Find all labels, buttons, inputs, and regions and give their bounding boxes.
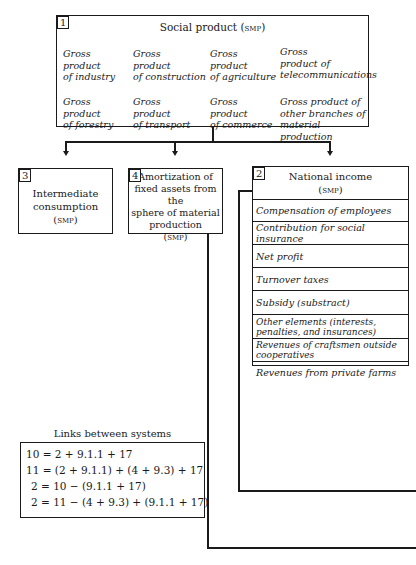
item-other-branches: Gross product ofother branches ofmateria…	[280, 96, 368, 142]
item-forestry: Grossproductof forestry	[63, 96, 113, 131]
equation-3: 2 = 10 − (9.1.1 + 17)	[26, 478, 199, 494]
links-box: 10 = 2 + 9.1.1 + 17 11 = (2 + 9.1.1) + (…	[20, 442, 205, 518]
item-transport: Grossproductof transport	[133, 96, 190, 131]
amortization-box: 4 Amortization of fixed assets from the …	[128, 168, 223, 234]
bracket-from-4-horizontal	[207, 547, 416, 549]
item-agriculture: Grossproductof agriculture	[210, 48, 276, 83]
equation-4: 2 = 11 − (4 + 9.3) + (9.1.1 + 17)	[26, 494, 199, 510]
bracket-from-2-horizontal	[238, 490, 416, 492]
social-product-box: 1 Social product (smp) Grossproductof in…	[56, 15, 369, 127]
national-income-label: National income	[253, 170, 408, 183]
item-telecommunications: Grossproduct oftelecommunications	[280, 46, 377, 81]
row-social-insurance: Contribution for social insurance	[253, 222, 408, 245]
row-other-elements: Other elements (interests, penalties, an…	[253, 315, 408, 339]
links-title: Links between systems	[20, 428, 205, 439]
row-net-profit: Net profit	[253, 245, 408, 268]
box4-line: production	[129, 219, 222, 231]
box4-line: fixed assets from the	[129, 183, 222, 207]
national-income-title: National income (smp)	[253, 167, 408, 200]
national-income-box: 2 National income (smp) Compensation of …	[252, 166, 409, 366]
box-number-2: 2	[253, 167, 265, 180]
equation-1: 10 = 2 + 9.1.1 + 17	[26, 446, 199, 462]
national-income-smp: (smp)	[253, 183, 408, 196]
box3-line: consumption	[19, 200, 112, 213]
arrow-to-3	[63, 151, 69, 156]
box3-line: Intermediate	[19, 187, 112, 200]
social-product-title: Social product (smp)	[57, 21, 368, 33]
arrow-to-2	[327, 151, 333, 156]
row-private-farms: Revenues from private farms	[253, 362, 408, 383]
item-construction: Grossproductof construction	[133, 48, 206, 83]
box4-line: sphere of material	[129, 207, 222, 219]
item-commerce: Grossproductof commerce	[210, 96, 272, 131]
box-number-3: 3	[19, 169, 31, 182]
arrow-to-4	[172, 151, 178, 156]
box-number-4: 4	[129, 169, 141, 182]
connector-trunk	[212, 127, 214, 142]
row-craftsmen: Revenues of craftsmen outside cooperativ…	[253, 339, 408, 362]
bracket-from-2-vertical	[238, 190, 240, 491]
row-subsidy: Subsidy (substract)	[253, 291, 408, 315]
row-turnover-taxes: Turnover taxes	[253, 268, 408, 291]
box3-line: (smp)	[19, 213, 112, 226]
row-compensation: Compensation of employees	[253, 200, 408, 222]
intermediate-consumption-box: 3 Intermediate consumption (smp)	[18, 168, 113, 234]
item-industry: Grossproductof industry	[63, 48, 115, 83]
equation-2: 11 = (2 + 9.1.1) + (4 + 9.3) + 17	[26, 462, 199, 478]
bracket-from-2-top	[238, 190, 252, 192]
box4-line: Amortization of	[129, 171, 222, 183]
connector-horizontal	[65, 141, 330, 143]
